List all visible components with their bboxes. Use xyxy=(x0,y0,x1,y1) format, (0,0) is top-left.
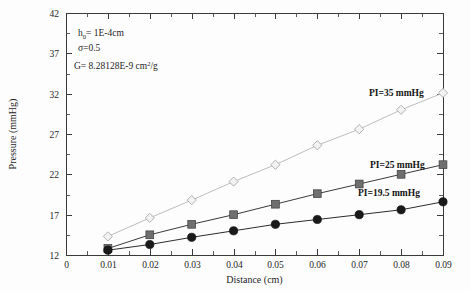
y-axis-tick-label: 32 xyxy=(50,90,60,100)
data-point-marker xyxy=(229,177,238,186)
x-axis-tick-label: 0.09 xyxy=(435,260,452,270)
data-point-marker xyxy=(438,88,447,97)
data-point-marker xyxy=(313,215,321,223)
data-point-marker xyxy=(313,190,321,198)
data-point-marker xyxy=(271,160,280,169)
data-point-marker xyxy=(439,198,447,206)
data-point-marker xyxy=(397,105,406,114)
plot-frame xyxy=(67,14,444,256)
annotation-sigma: σ=0.5 xyxy=(78,43,101,53)
y-axis-title: Pressure (mmHg) xyxy=(7,99,19,170)
data-point-marker xyxy=(230,227,238,235)
figure-container: 1217222732374200.010.020.030.040.050.060… xyxy=(0,0,471,291)
data-point-marker xyxy=(146,231,154,239)
annotation-shear-modulus: G= 8.28128E-9 cm2/g xyxy=(74,60,158,71)
data-point-marker xyxy=(188,233,196,241)
x-axis-tick-label: 0.02 xyxy=(142,260,159,270)
x-axis-tick-label: 0.05 xyxy=(267,260,284,270)
data-point-marker xyxy=(188,220,196,228)
data-point-marker xyxy=(355,180,363,188)
x-axis-tick-label: 0.04 xyxy=(226,260,243,270)
data-point-marker xyxy=(230,211,238,219)
data-point-marker xyxy=(187,196,196,205)
series-label-1: PI=25 mmHg xyxy=(370,160,425,170)
y-axis-tick-label: 17 xyxy=(50,211,60,221)
x-axis-tick-label: 0.08 xyxy=(393,260,410,270)
annotation-h0: h0= 1E-4cm xyxy=(78,28,124,40)
x-axis-tick-label: 0 xyxy=(64,260,69,270)
x-axis-tick-label: 0.01 xyxy=(100,260,117,270)
y-axis-tick-label: 42 xyxy=(50,9,60,19)
y-axis-tick-label: 37 xyxy=(50,49,60,59)
data-point-marker xyxy=(313,141,322,150)
data-point-marker xyxy=(104,246,112,254)
data-point-marker xyxy=(397,206,405,214)
chart-canvas: 1217222732374200.010.020.030.040.050.060… xyxy=(0,0,471,291)
x-axis-tick-label: 0.03 xyxy=(184,260,201,270)
data-point-marker xyxy=(397,170,405,178)
data-point-marker xyxy=(439,161,447,169)
data-point-marker xyxy=(271,220,279,228)
y-axis-tick-label: 22 xyxy=(50,170,60,180)
x-axis-tick-label: 0.07 xyxy=(351,260,368,270)
data-point-marker xyxy=(272,200,280,208)
data-point-marker xyxy=(355,211,363,219)
x-axis-tick-label: 0.06 xyxy=(309,260,326,270)
data-point-marker xyxy=(355,125,364,134)
data-point-marker xyxy=(146,240,154,248)
x-axis-title: Distance (cm) xyxy=(226,274,282,286)
data-point-marker xyxy=(103,232,112,241)
y-axis-tick-label: 27 xyxy=(50,130,60,140)
data-point-marker xyxy=(145,213,154,222)
series-label-2: PI=19.5 mmHg xyxy=(358,188,420,198)
series-label-0: PI=35 mmHg xyxy=(369,88,424,98)
y-axis-tick-label: 12 xyxy=(50,251,60,261)
